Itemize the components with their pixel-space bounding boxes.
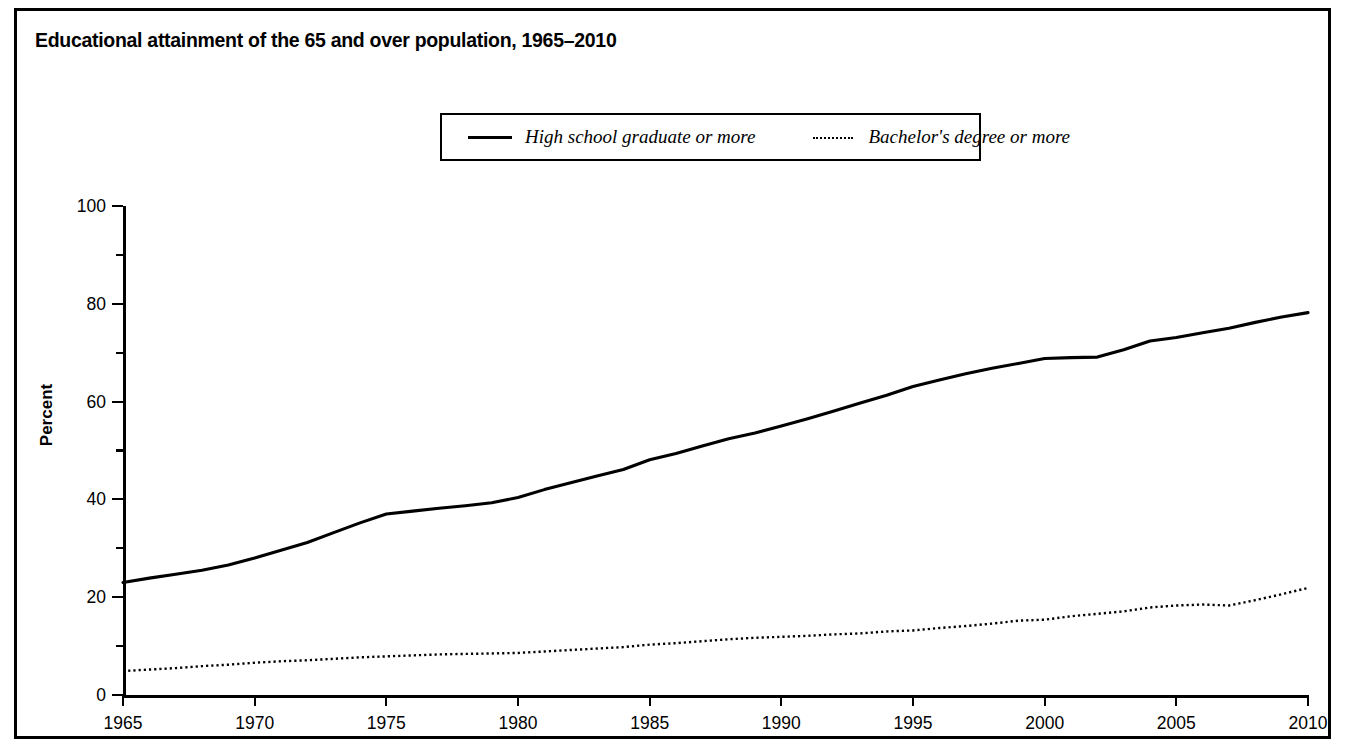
- chart-legend: High school graduate or more Bachelor's …: [440, 113, 981, 161]
- legend-label-high-school: High school graduate or more: [525, 126, 755, 148]
- y-minor-tick-10: [116, 645, 123, 647]
- x-tick-1980: [517, 695, 519, 706]
- y-tick-label-0: 0: [96, 685, 106, 706]
- series-lines: [123, 206, 1308, 695]
- y-minor-tick-30: [116, 547, 123, 549]
- x-tick-label-2010: 2010: [1289, 713, 1328, 734]
- y-tick-label-40: 40: [87, 489, 106, 510]
- x-axis-line: [123, 695, 1308, 698]
- x-tick-label-1980: 1980: [499, 713, 538, 734]
- x-tick-1985: [649, 695, 651, 706]
- y-tick-80: [112, 303, 123, 305]
- line-high-school: [123, 313, 1308, 583]
- x-tick-1975: [385, 695, 387, 706]
- y-axis-title: Percent: [37, 384, 57, 446]
- x-tick-1995: [912, 695, 914, 706]
- x-tick-label-1995: 1995: [894, 713, 933, 734]
- x-tick-label-2005: 2005: [1157, 713, 1196, 734]
- y-tick-label-20: 20: [87, 587, 106, 608]
- x-tick-label-1985: 1985: [630, 713, 669, 734]
- x-tick-2010: [1307, 695, 1309, 706]
- chart-figure: Educational attainment of the 65 and ove…: [14, 8, 1331, 739]
- x-tick-1965: [122, 695, 124, 706]
- y-tick-label-80: 80: [87, 293, 106, 314]
- y-tick-label-60: 60: [87, 391, 106, 412]
- legend-label-bachelors: Bachelor's degree or more: [868, 126, 1070, 148]
- x-tick-label-1990: 1990: [762, 713, 801, 734]
- y-minor-tick-50: [116, 449, 123, 451]
- x-tick-label-1970: 1970: [235, 713, 274, 734]
- y-minor-tick-90: [116, 254, 123, 256]
- x-tick-2005: [1175, 695, 1177, 706]
- x-tick-label-2000: 2000: [1025, 713, 1064, 734]
- y-tick-60: [112, 401, 123, 403]
- dotted-line-swatch-icon: [811, 130, 855, 144]
- legend-item-high-school: High school graduate or more: [468, 126, 755, 148]
- x-tick-label-1975: 1975: [367, 713, 406, 734]
- legend-item-bachelors: Bachelor's degree or more: [811, 126, 1070, 148]
- y-minor-tick-70: [116, 352, 123, 354]
- x-tick-2000: [1044, 695, 1046, 706]
- y-tick-label-100: 100: [77, 196, 106, 217]
- y-tick-40: [112, 498, 123, 500]
- solid-line-swatch-icon: [468, 130, 512, 144]
- y-tick-20: [112, 596, 123, 598]
- x-tick-1970: [254, 695, 256, 706]
- line-bachelors: [123, 588, 1308, 671]
- plot-area: 020406080100 196519701975198019851990199…: [123, 206, 1308, 695]
- x-tick-1990: [780, 695, 782, 706]
- y-tick-100: [112, 205, 123, 207]
- chart-title: Educational attainment of the 65 and ove…: [35, 29, 616, 52]
- x-tick-label-1965: 1965: [104, 713, 143, 734]
